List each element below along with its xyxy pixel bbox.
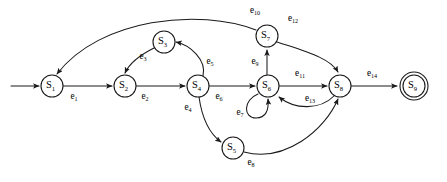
transition-label-e9: e9 (251, 56, 258, 67)
transition-subscript: 10 (254, 10, 260, 16)
transition-label-e8: e8 (247, 157, 254, 168)
transition-label-text-e9: e9 (251, 56, 258, 67)
state-node-S3[interactable]: S3 (153, 31, 175, 53)
transition-label-e13: e13 (305, 93, 315, 104)
transition-label-e6: e6 (215, 91, 222, 102)
state-node-S9[interactable]: S9 (400, 72, 428, 100)
transition-label-e10: e10 (250, 5, 260, 16)
transition-label-text-e4: e4 (184, 102, 191, 113)
transition-subscript: 9 (256, 61, 259, 67)
state-node-S1[interactable]: S1 (41, 75, 63, 97)
state-node-S2[interactable]: S2 (114, 75, 136, 97)
transition-subscript: 8 (252, 162, 255, 168)
transition-subscript: 3 (144, 56, 147, 62)
transition-label-text-e7: e7 (236, 107, 243, 118)
state-subscript: 1 (52, 85, 55, 92)
transition-label-text-e1: e1 (70, 91, 77, 102)
transition-label-text-e8: e8 (247, 157, 254, 168)
transition-subscript: 2 (146, 96, 149, 102)
transition-label-text-e10: e10 (250, 5, 260, 16)
transition-label-e2: e2 (141, 91, 148, 102)
fsm-diagram: S1S2S3S4S5S6S7S8S9 e1e2e3e4e5e6e7e8e9e10… (0, 0, 447, 182)
transition-subscript: 11 (299, 73, 305, 79)
transition-label-text-e11: e11 (295, 68, 305, 79)
transition-subscript: 6 (220, 96, 223, 102)
state-subscript: 2 (125, 85, 128, 92)
transition-subscript: 14 (371, 73, 377, 79)
transition-e4 (199, 97, 221, 142)
transition-label-e7: e7 (236, 107, 243, 118)
transition-e8 (244, 99, 338, 154)
state-node-S7[interactable]: S7 (256, 25, 278, 47)
state-node-S5[interactable]: S5 (222, 137, 244, 159)
transition-label-e4: e4 (184, 102, 191, 113)
transition-label-text-e14: e14 (367, 68, 377, 79)
transition-label-text-e6: e6 (215, 91, 222, 102)
transition-subscript: 12 (292, 18, 298, 24)
state-node-S6[interactable]: S6 (257, 75, 279, 97)
transition-label-e12: e12 (288, 13, 298, 24)
transition-label-text-e13: e13 (305, 93, 315, 104)
transition-label-e11: e11 (295, 68, 305, 79)
transition-subscript: 13 (309, 98, 315, 104)
transition-e12 (277, 42, 338, 72)
fsm-canvas: S1S2S3S4S5S6S7S8S9 e1e2e3e4e5e6e7e8e9e10… (0, 0, 447, 182)
transition-label-text-e5: e5 (206, 56, 213, 67)
state-node-S4[interactable]: S4 (187, 75, 209, 97)
transition-label-e5: e5 (206, 56, 213, 67)
transition-subscript: 4 (189, 107, 192, 113)
transition-label-text-e2: e2 (141, 91, 148, 102)
states-layer: S1S2S3S4S5S6S7S8S9 (41, 25, 428, 159)
transition-label-e1: e1 (70, 91, 77, 102)
transition-label-text-e12: e12 (288, 13, 298, 24)
transition-subscript: 5 (211, 61, 214, 67)
transition-e7 (246, 94, 268, 118)
state-node-S8[interactable]: S8 (329, 75, 351, 97)
transition-subscript: 7 (241, 112, 244, 118)
transition-label-e14: e14 (367, 68, 377, 79)
transition-subscript: 1 (75, 96, 78, 102)
transition-e5 (176, 42, 204, 76)
